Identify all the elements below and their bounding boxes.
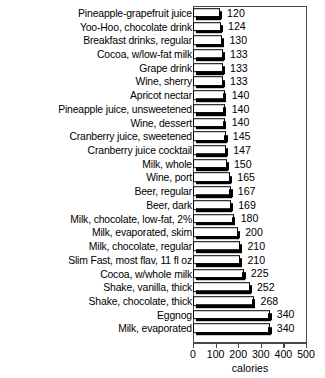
bar-row: Cocoa, w/whole milk225 <box>0 267 325 281</box>
bar-row: Yoo-Hoo, chocolate drink124 <box>0 20 325 34</box>
bar-value-label: 340 <box>270 323 295 334</box>
bar-container: 140 <box>193 104 225 114</box>
bar-row: Milk, chocolate, regular210 <box>0 239 325 253</box>
bar-container: 120 <box>193 8 220 18</box>
x-axis-tick-label: 0 <box>190 348 196 360</box>
bar-row: Pineapple juice, unsweetened140 <box>0 102 325 116</box>
category-label: Milk, chocolate, regular <box>89 241 192 252</box>
bar-value-label: 169 <box>231 199 256 210</box>
bar-row: Cranberry juice cocktail147 <box>0 143 325 157</box>
bar-container: 140 <box>193 118 225 128</box>
category-label: Milk, evaporated <box>118 323 192 334</box>
category-label: Shake, vanilla, thick <box>103 282 192 293</box>
bar-rows: Pineapple-grapefruit juice120Yoo-Hoo, ch… <box>0 6 325 335</box>
bar-container: 210 <box>193 241 240 251</box>
bar-container: 340 <box>193 324 270 334</box>
bar <box>193 214 234 224</box>
bar-row: Wine, dessert140 <box>0 116 325 130</box>
bar-row: Wine, port165 <box>0 171 325 185</box>
bar <box>193 200 231 210</box>
bar-container: 133 <box>193 77 223 87</box>
bar-row: Milk, evaporated340 <box>0 322 325 336</box>
bar <box>193 228 238 238</box>
bar-container: 210 <box>193 255 240 265</box>
bar-value-label: 140 <box>225 117 250 128</box>
bar-value-label: 140 <box>225 103 250 114</box>
bar-row: Apricot nectar140 <box>0 88 325 102</box>
bar-value-label: 268 <box>254 295 279 306</box>
bar-row: Beer, dark169 <box>0 198 325 212</box>
bar <box>193 63 223 73</box>
bar-row: Beer, regular167 <box>0 184 325 198</box>
bar-value-label: 252 <box>250 282 275 293</box>
x-axis-tick <box>238 343 239 348</box>
bar-container: 130 <box>193 36 222 46</box>
category-label: Yoo-Hoo, chocolate drink <box>80 21 192 32</box>
category-label: Pineapple-grapefruit juice <box>78 7 192 18</box>
bar <box>193 8 220 18</box>
x-axis-tick-label: 100 <box>207 348 225 360</box>
bar-row: Wine, sherry133 <box>0 75 325 89</box>
bar-row: Milk, chocolate, low-fat, 2%180 <box>0 212 325 226</box>
bar-value-label: 200 <box>238 227 263 238</box>
bar-row: Pineapple-grapefruit juice120 <box>0 6 325 20</box>
category-label: Grape drink <box>139 62 192 73</box>
category-label: Eggnog <box>157 309 192 320</box>
x-axis-line <box>193 343 307 344</box>
category-label: Milk, chocolate, low-fat, 2% <box>70 213 192 224</box>
category-label: Cocoa, w/low-fat milk <box>97 49 192 60</box>
bar-container: 165 <box>193 173 230 183</box>
bar-value-label: 150 <box>227 158 252 169</box>
bar <box>193 90 225 100</box>
bar-container: 225 <box>193 269 244 279</box>
bar <box>193 296 254 306</box>
category-label: Wine, sherry <box>135 76 192 87</box>
bar-value-label: 340 <box>270 309 295 320</box>
bar-row: Slim Fast, most flav, 11 fl oz210 <box>0 253 325 267</box>
bar-value-label: 124 <box>221 21 246 32</box>
bar-container: 147 <box>193 145 226 155</box>
bar-value-label: 130 <box>222 35 247 46</box>
bar-value-label: 210 <box>240 254 265 265</box>
bar <box>193 118 225 128</box>
bar-row: Grape drink133 <box>0 61 325 75</box>
bar-row: Breakfast drinks, regular130 <box>0 33 325 47</box>
category-label: Cocoa, w/whole milk <box>100 268 192 279</box>
bar-container: 268 <box>193 296 254 306</box>
bar-value-label: 120 <box>220 7 245 18</box>
x-axis-tick <box>216 343 217 348</box>
bar <box>193 49 223 59</box>
category-label: Pineapple juice, unsweetened <box>58 103 192 114</box>
bar <box>193 282 250 292</box>
x-axis-tick-label: 500 <box>297 348 315 360</box>
bar <box>193 269 244 279</box>
category-label: Cranberry juice, sweetened <box>69 131 192 142</box>
x-axis-tick <box>193 343 194 348</box>
bar-row: Cranberry juice, sweetened145 <box>0 129 325 143</box>
bar-container: 145 <box>193 132 226 142</box>
bar-value-label: 133 <box>223 49 248 60</box>
bar-value-label: 140 <box>225 90 250 101</box>
category-label: Breakfast drinks, regular <box>83 35 192 46</box>
category-label: Wine, port <box>146 172 192 183</box>
bar-value-label: 147 <box>226 145 251 156</box>
bar-row: Shake, chocolate, thick268 <box>0 294 325 308</box>
bar <box>193 173 230 183</box>
x-axis-title: calories <box>193 362 307 374</box>
bar <box>193 77 223 87</box>
bar-container: 200 <box>193 228 238 238</box>
bar-value-label: 210 <box>240 241 265 252</box>
category-label: Milk, whole <box>142 158 192 169</box>
x-axis-tick-label: 300 <box>252 348 270 360</box>
bar <box>193 186 231 196</box>
bar-value-label: 167 <box>231 186 256 197</box>
x-axis-tick <box>283 343 284 348</box>
category-label: Cranberry juice cocktail <box>88 145 192 156</box>
x-axis-tick-label: 400 <box>275 348 293 360</box>
x-axis-tick <box>306 343 307 348</box>
bar-row: Shake, vanilla, thick252 <box>0 280 325 294</box>
x-axis-tick <box>261 343 262 348</box>
bar-container: 167 <box>193 186 231 196</box>
bar-container: 252 <box>193 282 250 292</box>
bar-container: 124 <box>193 22 221 32</box>
